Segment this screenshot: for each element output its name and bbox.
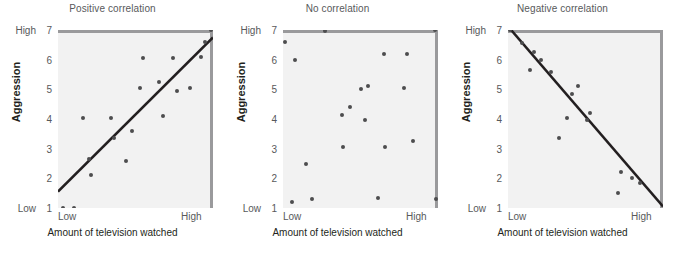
data-point <box>199 55 203 59</box>
data-point <box>341 145 345 149</box>
plot-area <box>283 30 438 208</box>
panel-title: No correlation <box>225 3 450 14</box>
scatter-panel-2: No correlationAggression7654321HighLowLo… <box>225 0 450 256</box>
y-axis-low-label: Low <box>456 203 486 214</box>
data-point <box>157 80 161 84</box>
data-point <box>89 173 93 177</box>
panel-title: Negative correlation <box>450 3 675 14</box>
data-point <box>283 40 287 44</box>
y-axis-low-label: Low <box>231 203 261 214</box>
x-axis-high-label: High <box>406 211 427 222</box>
data-point <box>366 84 370 88</box>
y-tick-label: 3 <box>263 143 277 154</box>
x-axis-title: Amount of television watched <box>450 227 675 238</box>
data-point <box>310 197 314 201</box>
data-point <box>528 68 532 72</box>
data-point <box>363 118 367 122</box>
x-axis-low-label: Low <box>58 211 76 222</box>
data-point <box>405 52 409 56</box>
y-axis-high-label: High <box>456 25 486 36</box>
data-points-layer <box>283 30 438 208</box>
y-tick-label: 4 <box>263 114 277 125</box>
y-tick-label: 5 <box>488 84 502 95</box>
data-point <box>539 58 543 62</box>
data-point <box>359 87 363 91</box>
data-point <box>340 113 344 117</box>
y-axis-ticks: 7654321 <box>38 0 52 256</box>
data-point <box>376 196 380 200</box>
y-axis-title: Aggression <box>235 52 247 132</box>
y-axis-high-label: High <box>231 25 261 36</box>
y-tick-label: 1 <box>488 203 502 214</box>
x-axis-high-label: High <box>631 211 652 222</box>
data-point <box>323 30 327 33</box>
data-point <box>638 181 642 185</box>
data-point <box>138 86 142 90</box>
data-point <box>124 159 128 163</box>
data-point <box>188 86 192 90</box>
x-axis-low-label: Low <box>283 211 301 222</box>
y-tick-label: 7 <box>488 25 502 36</box>
y-tick-label: 6 <box>263 54 277 65</box>
scatter-panel-3: Negative correlationAggression7654321Hig… <box>450 0 675 256</box>
y-axis-title: Aggression <box>10 52 22 132</box>
data-point <box>171 56 175 60</box>
y-axis-ticks: 7654321 <box>488 0 502 256</box>
y-tick-label: 3 <box>38 143 52 154</box>
y-tick-label: 7 <box>263 25 277 36</box>
y-tick-label: 3 <box>488 143 502 154</box>
panel-title: Positive correlation <box>0 3 225 14</box>
data-point <box>293 58 297 62</box>
data-point <box>402 86 406 90</box>
data-point <box>570 92 574 96</box>
y-tick-label: 6 <box>488 54 502 65</box>
plot-area <box>58 30 213 208</box>
x-axis-title: Amount of television watched <box>225 227 450 238</box>
data-point <box>72 206 76 208</box>
data-point <box>61 206 65 208</box>
y-tick-label: 6 <box>38 54 52 65</box>
y-tick-label: 5 <box>263 84 277 95</box>
plot-area <box>508 30 663 208</box>
y-axis-low-label: Low <box>6 203 36 214</box>
data-point <box>109 116 113 120</box>
scatter-panel-1: Positive correlationAggression7654321Hig… <box>0 0 225 256</box>
data-point <box>508 30 512 32</box>
y-tick-label: 1 <box>38 203 52 214</box>
y-tick-label: 2 <box>38 173 52 184</box>
y-axis-title: Aggression <box>460 52 472 132</box>
y-axis-high-label: High <box>6 25 36 36</box>
x-axis-low-label: Low <box>508 211 526 222</box>
data-points-layer <box>58 30 213 208</box>
data-point <box>382 52 386 56</box>
data-point <box>411 139 415 143</box>
y-tick-label: 1 <box>263 203 277 214</box>
data-point <box>304 162 308 166</box>
data-point <box>348 105 352 109</box>
correlation-figure: Positive correlationAggression7654321Hig… <box>0 0 675 256</box>
y-tick-label: 2 <box>488 173 502 184</box>
y-tick-label: 2 <box>263 173 277 184</box>
data-points-layer <box>508 30 663 208</box>
y-tick-label: 7 <box>38 25 52 36</box>
data-point <box>433 30 437 32</box>
data-point <box>565 116 569 120</box>
y-axis-ticks: 7654321 <box>263 0 277 256</box>
y-tick-label: 5 <box>38 84 52 95</box>
y-tick-label: 4 <box>38 114 52 125</box>
data-point <box>81 116 85 120</box>
y-tick-label: 4 <box>488 114 502 125</box>
data-point <box>383 145 387 149</box>
data-point <box>434 197 438 201</box>
x-axis-title: Amount of television watched <box>0 227 225 238</box>
x-axis-high-label: High <box>181 211 202 222</box>
data-point <box>290 200 294 204</box>
